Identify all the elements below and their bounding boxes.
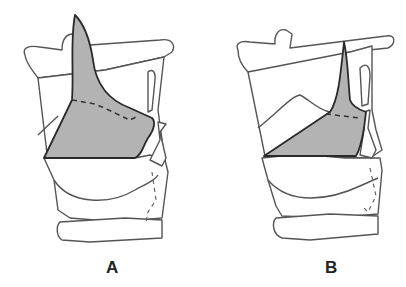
panel-a-figure bbox=[24, 15, 173, 242]
diagram-canvas bbox=[0, 0, 406, 287]
panel-b-figure bbox=[237, 30, 394, 240]
panel-a-label: A bbox=[106, 258, 118, 278]
panel-b-label: B bbox=[325, 258, 337, 278]
